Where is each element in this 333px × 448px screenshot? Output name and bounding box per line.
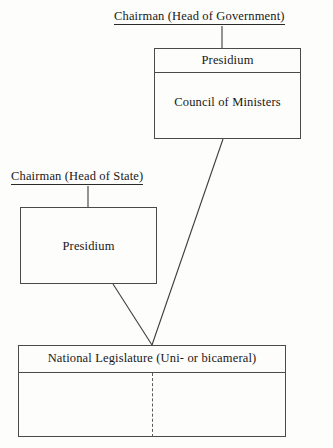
legislature-chamber-divider-dashed (152, 373, 153, 437)
box-presidium-state: Presidium (20, 207, 157, 284)
box-national-legislature: National Legislature (Uni- or bicameral) (18, 345, 286, 437)
cell-presidium-government-header: Presidium (155, 53, 300, 68)
connector-state-presidium-to-legislature (113, 284, 152, 345)
cell-council-of-ministers: Council of Ministers (155, 95, 300, 110)
label-head-of-state: Chairman (Head of State) (11, 169, 143, 185)
box-presidium-government: Presidium Council of Ministers (154, 48, 301, 139)
cell-presidium-state-header: Presidium (21, 239, 156, 254)
connector-council-of-ministers-to-legislature (152, 139, 223, 345)
label-head-of-government: Chairman (Head of Government) (114, 9, 285, 25)
diagram-canvas: Chairman (Head of Government) Chairman (… (0, 0, 333, 448)
cell-national-legislature-header: National Legislature (Uni- or bicameral) (19, 351, 285, 366)
box-divider (155, 72, 300, 73)
